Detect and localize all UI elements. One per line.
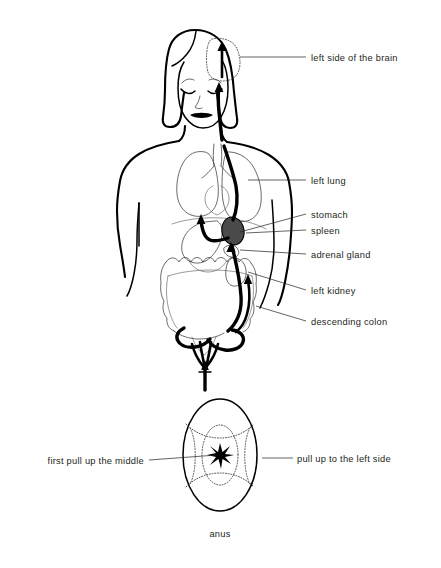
label-first-pull-up-the-middle: first pull up the middle bbox=[48, 456, 144, 466]
label-spleen: spleen bbox=[311, 226, 340, 236]
leader-colon bbox=[256, 306, 306, 321]
label-stomach: stomach bbox=[311, 210, 348, 220]
brain-region-group bbox=[207, 38, 241, 81]
anatomy-diagram: left side of the brain left lung stomach… bbox=[0, 0, 441, 568]
heart bbox=[205, 186, 229, 215]
shoulder-left bbox=[117, 141, 179, 211]
transverse-colon bbox=[166, 258, 251, 264]
treatment-line-chest bbox=[224, 146, 237, 220]
chest-organs-group bbox=[177, 144, 261, 222]
eyebrow-left bbox=[182, 79, 194, 83]
lung-right bbox=[177, 151, 219, 216]
anus-upper-arc bbox=[186, 424, 254, 438]
trachea bbox=[213, 144, 222, 166]
label-left-lung: left lung bbox=[311, 176, 346, 186]
treatment-line-upper bbox=[218, 87, 222, 140]
treatment-line-right-branch bbox=[236, 280, 249, 332]
arm-right-outer bbox=[278, 212, 292, 305]
label-descending-colon: descending colon bbox=[311, 317, 387, 327]
label-pull-up-to-the-left-side: pull up to the left side bbox=[297, 454, 391, 464]
label-left-kidney: left kidney bbox=[311, 286, 356, 296]
waist-right bbox=[260, 200, 274, 308]
nose bbox=[195, 96, 202, 109]
torso-group bbox=[117, 141, 292, 308]
anus-right-pillar bbox=[245, 428, 250, 484]
anal-opening-star bbox=[207, 443, 234, 469]
arm-left-outer bbox=[117, 211, 125, 277]
sigmoid-colon bbox=[174, 331, 224, 339]
treatment-arrow-face bbox=[215, 82, 224, 92]
neck-left bbox=[179, 126, 185, 141]
label-left-side-of-the-brain: left side of the brain bbox=[311, 53, 398, 63]
anus-detail-group bbox=[183, 399, 257, 511]
head-group bbox=[163, 30, 237, 142]
ascending-colon bbox=[161, 262, 174, 331]
bronchus-right bbox=[202, 166, 214, 178]
leader-spleen bbox=[246, 230, 306, 233]
diagram-canvas: left side of the brain left lung stomach… bbox=[0, 0, 441, 568]
mouth bbox=[190, 113, 213, 118]
treatment-loop-right bbox=[208, 330, 243, 350]
label-adrenal-gland: adrenal gland bbox=[311, 250, 371, 260]
anus-left-pillar bbox=[190, 428, 195, 484]
arm-left-inner bbox=[127, 203, 139, 296]
ascending-colon-inner bbox=[167, 276, 178, 328]
caption-anus: anus bbox=[209, 529, 230, 539]
